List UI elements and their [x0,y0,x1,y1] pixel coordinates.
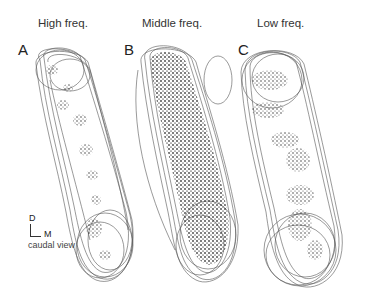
panels-drawing [0,0,368,302]
panel-b-dots [150,52,229,265]
dorsal-label: D [29,213,36,223]
view-label: caudal view [28,240,75,250]
orientation-legend: D M caudal view [20,213,80,253]
orientation-axes-icon [30,224,41,237]
medial-label: M [44,229,52,239]
